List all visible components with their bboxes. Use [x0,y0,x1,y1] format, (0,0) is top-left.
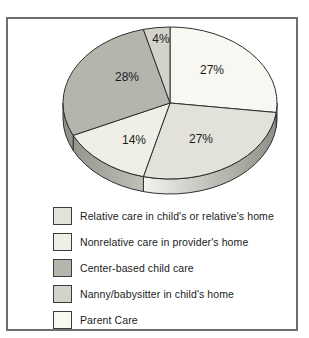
legend-swatch-relative-care-in-child-s-or-relative-s-home [53,207,72,225]
legend-label-parent-care: Parent Care [80,314,138,326]
slice-percent-label-nonrelative-care-in-provider-s-home: 14% [122,133,146,147]
slice-percent-label-nanny-babysitter-in-child-s-home: 4% [152,32,170,46]
legend: Relative care in child's or relative's h… [53,206,274,336]
slice-percent-label-parent-care: 27% [200,63,224,77]
legend-swatch-nanny-babysitter-in-child-s-home [53,285,72,303]
slice-percent-label-relative-care-in-child-s-or-relative-s-home: 27% [189,132,213,146]
pie-slices [63,27,277,179]
legend-label-center-based-child-care: Center-based child care [80,262,194,274]
legend-item-nonrelative-care-in-provider-s-home: Nonrelative care in provider's home [53,232,274,251]
slice-percent-label-center-based-child-care: 28% [115,70,139,84]
legend-swatch-parent-care [53,311,72,329]
legend-item-nanny-babysitter-in-child-s-home: Nanny/babysitter in child's home [53,284,274,303]
legend-label-relative-care-in-child-s-or-relative-s-home: Relative care in child's or relative's h… [80,210,274,222]
legend-swatch-nonrelative-care-in-provider-s-home [53,233,72,251]
legend-item-parent-care: Parent Care [53,310,274,329]
chart-figure: { "chart_data": { "type": "pie", "title"… [0,0,309,338]
legend-swatch-center-based-child-care [53,259,72,277]
legend-item-relative-care-in-child-s-or-relative-s-home: Relative care in child's or relative's h… [53,206,274,225]
legend-label-nonrelative-care-in-provider-s-home: Nonrelative care in provider's home [80,236,248,248]
legend-item-center-based-child-care: Center-based child care [53,258,274,277]
legend-label-nanny-babysitter-in-child-s-home: Nanny/babysitter in child's home [80,288,234,300]
